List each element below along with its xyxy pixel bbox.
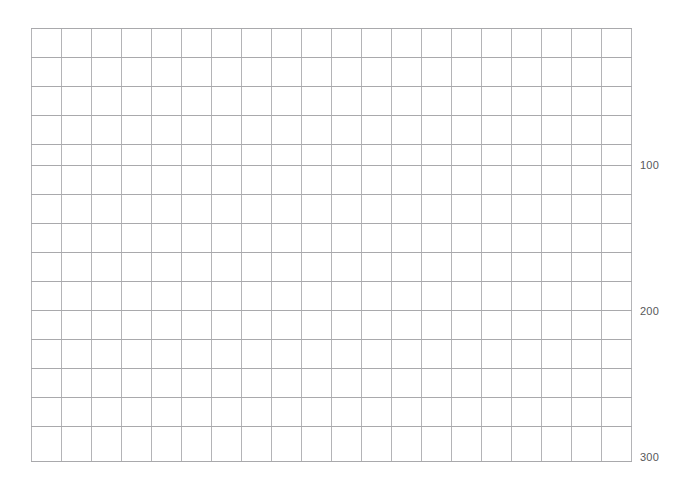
y-axis-tick-label-200: 200 bbox=[640, 306, 659, 317]
y-axis-tick-label-300: 300 bbox=[640, 452, 659, 463]
y-axis-tick-label-100: 100 bbox=[640, 160, 659, 171]
grid-lines bbox=[31, 28, 632, 462]
chart-root: 100 200 300 bbox=[0, 0, 693, 493]
plot-grid-area bbox=[31, 28, 632, 462]
